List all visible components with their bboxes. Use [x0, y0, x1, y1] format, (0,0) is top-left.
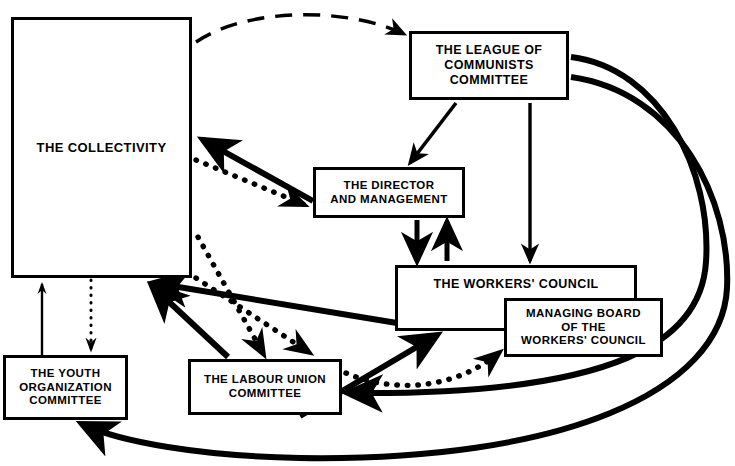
edge-collectivity-to-league	[196, 15, 404, 42]
node-managing-board-label: MANAGING BOARD OF THE WORKERS' COUNCIL	[517, 307, 650, 348]
node-labour-union-committee[interactable]: THE LABOUR UNION COMMITTEE	[188, 359, 342, 415]
node-managing-board-of-workers-council[interactable]: MANAGING BOARD OF THE WORKERS' COUNCIL	[504, 298, 663, 357]
edge-labour-union-to-managing-board	[346, 352, 500, 385]
node-director-label: THE DIRECTOR AND MANAGEMENT	[326, 179, 451, 206]
node-collectivity[interactable]: THE COLLECTIVITY	[11, 17, 192, 278]
node-collectivity-label: THE COLLECTIVITY	[33, 140, 171, 155]
organization-diagram: THE COLLECTIVITY THE LEAGUE OF COMMUNIST…	[0, 0, 735, 466]
edge-director-to-collectivity	[203, 140, 313, 201]
node-youth-label: THE YOUTH ORGANIZATION COMMITTEE	[15, 367, 116, 408]
node-youth-organization-committee[interactable]: THE YOUTH ORGANIZATION COMMITTEE	[3, 355, 128, 420]
node-workers-council-label: THE WORKERS' COUNCIL	[429, 277, 602, 292]
node-league-of-communists-committee[interactable]: THE LEAGUE OF COMMUNISTS COMMITTEE	[409, 31, 569, 100]
node-director-and-management[interactable]: THE DIRECTOR AND MANAGEMENT	[313, 167, 465, 218]
node-labour-union-label: THE LABOUR UNION COMMITTEE	[200, 373, 330, 400]
edge-labour-union-to-collectivity	[152, 286, 228, 357]
edge-workers-council-to-collectivity	[154, 283, 397, 323]
edge-league-to-director	[410, 103, 456, 163]
node-league-label: THE LEAGUE OF COMMUNISTS COMMITTEE	[432, 43, 547, 87]
